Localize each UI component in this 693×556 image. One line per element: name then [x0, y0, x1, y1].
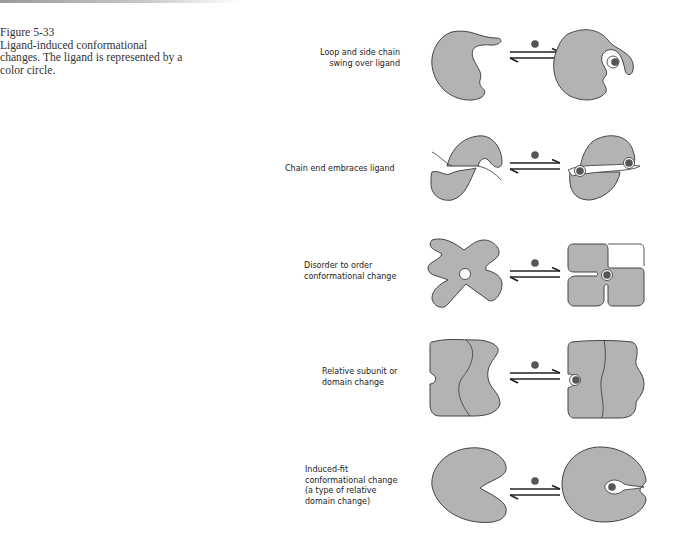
equilibrium-arrows: [510, 151, 560, 173]
ligand: [625, 159, 633, 167]
protein-unbound-bottom: [431, 168, 476, 200]
row-loop: [432, 30, 633, 100]
protein-unbound-top: [447, 136, 502, 167]
chain-end: [478, 166, 501, 180]
ligand: [572, 376, 580, 384]
protein-unbound: [432, 448, 506, 523]
row-induced-fit: [432, 447, 646, 522]
ligand: [608, 483, 616, 491]
conformational-change-diagram: [0, 0, 693, 556]
protein-bound: [562, 447, 646, 522]
ligand: [576, 167, 584, 175]
protein-bound: [554, 30, 634, 100]
equilibrium-arrows: [510, 477, 560, 499]
empty-pocket: [460, 269, 471, 280]
row-subunit: [430, 340, 644, 419]
protein-unbound: [432, 31, 501, 100]
row-chain-end: [431, 136, 640, 201]
equilibrium-arrows: [510, 361, 560, 383]
ligand: [611, 58, 619, 66]
protein-unbound: [430, 340, 500, 417]
ligand: [603, 271, 611, 279]
row-disorder-order: [428, 239, 644, 307]
equilibrium-arrows: [510, 259, 560, 281]
equilibrium-arrows: [510, 40, 560, 62]
